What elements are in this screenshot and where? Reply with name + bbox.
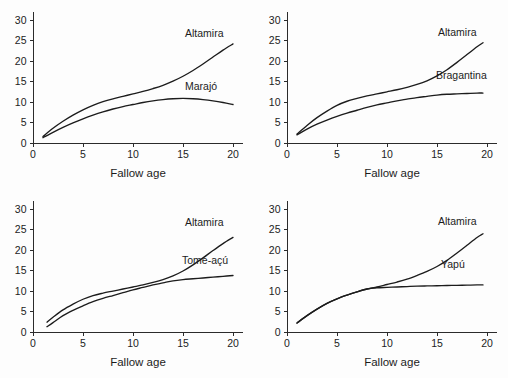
y-tick-label: 15: [269, 264, 281, 276]
x-axis-title: Fallow age: [364, 167, 420, 179]
series-line: [297, 285, 483, 323]
series-label: Altamira: [438, 215, 477, 227]
y-tick-label: 5: [21, 116, 27, 128]
series-line: [43, 98, 233, 137]
y-tick-label: 0: [275, 137, 281, 149]
y-tick-label: 10: [15, 285, 27, 297]
y-tick-label: 20: [15, 244, 27, 256]
chart-svg-bottom-left: 05101520253005101520 Fallow ageAltamiraT…: [0, 189, 254, 378]
curves-bottom-left: [47, 237, 233, 326]
chart-svg-top-left: 05101520253005101520 Fallow ageAltamiraM…: [0, 0, 254, 189]
x-tick-label: 5: [334, 337, 340, 349]
y-tick-label: 5: [21, 305, 27, 317]
x-axis-title: Fallow age: [364, 356, 420, 368]
series-line: [47, 276, 233, 327]
x-axis-title: Fallow age: [110, 356, 166, 368]
y-tick-label: 10: [15, 96, 27, 108]
series-label: Yapú: [441, 258, 465, 270]
chart-svg-bottom-right: 05101520253005101520 Fallow ageAltamiraY…: [254, 189, 508, 378]
x-tick-label: 15: [431, 148, 443, 160]
curves-bottom-right: [297, 234, 483, 323]
y-tick-label: 20: [15, 55, 27, 67]
x-tick-label: 20: [227, 337, 239, 349]
y-tick-label: 10: [269, 285, 281, 297]
series-label: Tomé-açú: [182, 254, 228, 266]
y-tick-label: 30: [15, 14, 27, 26]
y-tick-label: 25: [269, 34, 281, 46]
x-axis-title: Fallow age: [110, 167, 166, 179]
y-tick-label: 25: [15, 223, 27, 235]
curves-top-right: [297, 43, 483, 135]
x-tick-label: 0: [284, 148, 290, 160]
x-tick-label: 0: [30, 148, 36, 160]
y-tick-label: 15: [269, 75, 281, 87]
series-label: Bragantina: [436, 69, 487, 81]
y-tick-label: 0: [21, 137, 27, 149]
chart-panel-bottom-right: 05101520253005101520 Fallow ageAltamiraY…: [254, 189, 508, 378]
x-tick-label: 15: [431, 337, 443, 349]
x-tick-label: 20: [481, 148, 493, 160]
y-tick-label: 30: [15, 203, 27, 215]
x-tick-label: 5: [334, 148, 340, 160]
series-label: Marajó: [185, 80, 217, 92]
y-tick-label: 20: [269, 244, 281, 256]
x-tick-label: 5: [80, 337, 86, 349]
x-tick-label: 10: [127, 337, 139, 349]
series-label: Altamira: [185, 216, 224, 228]
y-tick-label: 20: [269, 55, 281, 67]
x-tick-label: 0: [30, 337, 36, 349]
y-tick-label: 10: [269, 96, 281, 108]
x-tick-label: 15: [177, 337, 189, 349]
series-line: [297, 93, 483, 135]
series-line: [297, 234, 483, 323]
x-tick-label: 20: [481, 337, 493, 349]
y-tick-label: 0: [21, 326, 27, 338]
x-tick-label: 10: [127, 148, 139, 160]
y-tick-label: 0: [275, 326, 281, 338]
x-tick-label: 20: [227, 148, 239, 160]
y-tick-label: 25: [269, 223, 281, 235]
y-tick-label: 30: [269, 203, 281, 215]
y-tick-label: 15: [15, 75, 27, 87]
chart-panel-bottom-left: 05101520253005101520 Fallow ageAltamiraT…: [0, 189, 254, 378]
y-tick-label: 15: [15, 264, 27, 276]
x-tick-label: 0: [284, 337, 290, 349]
series-label: Altamira: [438, 26, 477, 38]
series-label: Altamira: [185, 27, 224, 39]
x-tick-label: 10: [381, 148, 393, 160]
x-tick-label: 5: [80, 148, 86, 160]
chart-panel-top-left: 05101520253005101520 Fallow ageAltamiraM…: [0, 0, 254, 189]
y-tick-label: 5: [275, 116, 281, 128]
y-tick-label: 25: [15, 34, 27, 46]
x-tick-label: 15: [177, 148, 189, 160]
y-tick-label: 30: [269, 14, 281, 26]
chart-panel-top-right: 05101520253005101520 Fallow ageAltamiraB…: [254, 0, 508, 189]
multi-panel-line-chart-figure: 05101520253005101520 Fallow ageAltamiraM…: [0, 0, 508, 378]
y-tick-label: 5: [275, 305, 281, 317]
x-tick-label: 10: [381, 337, 393, 349]
chart-svg-top-right: 05101520253005101520 Fallow ageAltamiraB…: [254, 0, 508, 189]
